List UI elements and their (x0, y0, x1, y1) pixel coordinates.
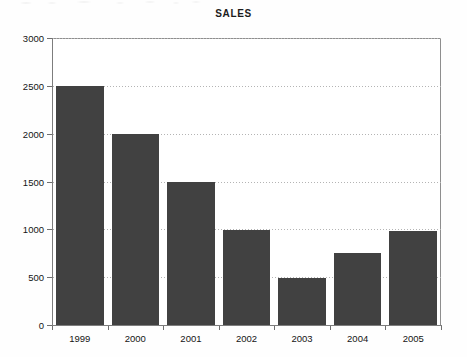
y-axis-tick-label: 1500 (0, 176, 44, 187)
gridline (53, 38, 441, 39)
bar-1999 (56, 86, 104, 325)
x-axis-tick-label: 2001 (180, 333, 201, 344)
bar-2004 (334, 253, 382, 325)
x-axis-tick (385, 326, 386, 330)
x-axis-tick-label: 2002 (236, 333, 257, 344)
y-axis-tick-label: 2000 (0, 128, 44, 139)
x-axis-tick (274, 326, 275, 330)
x-axis-tick (108, 326, 109, 330)
bar-2002 (223, 230, 271, 325)
scan-artifact (0, 0, 467, 7)
y-axis-tick-label: 3000 (0, 33, 44, 44)
x-axis-tick (441, 326, 442, 330)
x-axis-tick-label: 2004 (347, 333, 368, 344)
chart-page: SALES 050010001500200025003000 199920002… (0, 0, 467, 357)
y-axis-tick-label: 1000 (0, 224, 44, 235)
x-axis-tick-label: 2005 (403, 333, 424, 344)
y-axis-tick (47, 134, 52, 135)
x-axis-tick-label: 2003 (291, 333, 312, 344)
x-axis-tick-label: 1999 (69, 333, 90, 344)
y-axis-tick (47, 277, 52, 278)
x-axis-tick (52, 326, 53, 330)
bar-2001 (167, 182, 215, 326)
y-axis-tick (47, 182, 52, 183)
y-axis-tick (47, 229, 52, 230)
bar-2005 (389, 231, 437, 325)
x-axis-line (52, 325, 442, 326)
y-axis-tick (47, 86, 52, 87)
bar-2003 (278, 278, 326, 325)
x-axis-tick-label: 2000 (125, 333, 146, 344)
gridline (53, 86, 441, 87)
x-axis-tick (330, 326, 331, 330)
y-axis-tick-label: 2500 (0, 80, 44, 91)
chart-title: SALES (0, 8, 467, 19)
y-axis-tick (47, 38, 52, 39)
x-axis-tick (219, 326, 220, 330)
bar-2000 (112, 134, 160, 325)
x-axis-tick (163, 326, 164, 330)
y-axis-tick-label: 0 (0, 320, 44, 331)
y-axis-tick-label: 500 (0, 272, 44, 283)
